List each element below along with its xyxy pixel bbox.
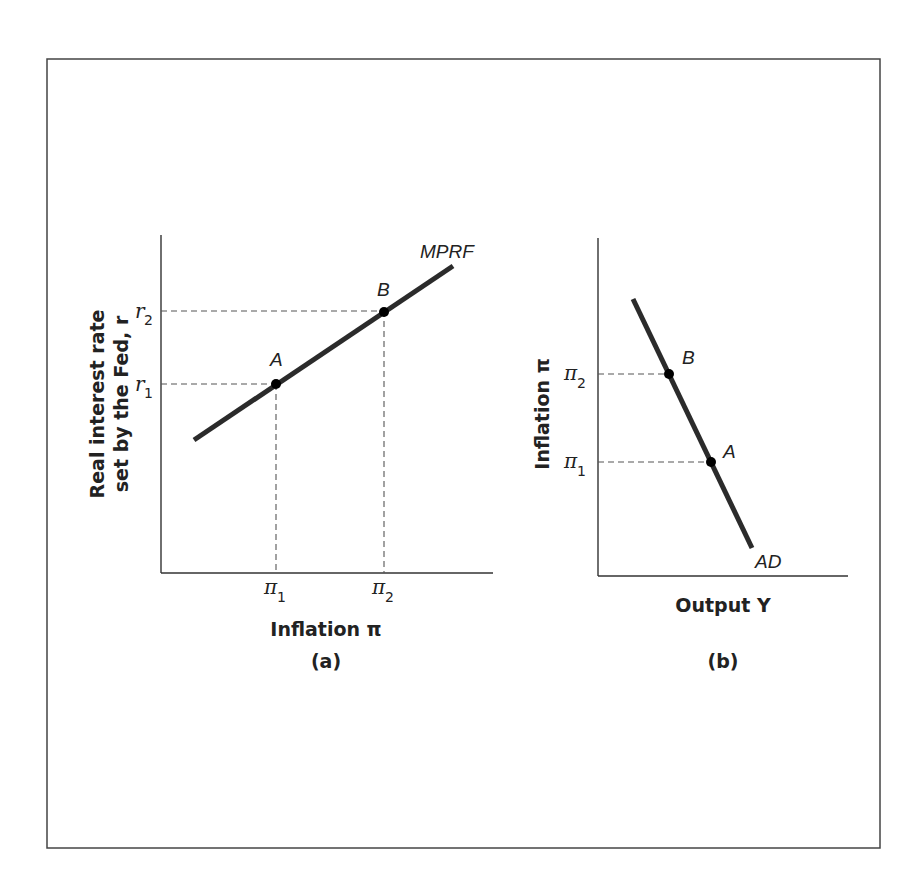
panel-a: A B MPRF r 2 r 1 π 1 π 2 Inflation π (a)… xyxy=(86,235,493,672)
tick-pi2-base: π xyxy=(371,575,386,599)
tick-b-pi2-base: π xyxy=(563,361,578,385)
tick-pi2-sub: 2 xyxy=(385,589,394,605)
panel-a-point-b xyxy=(379,307,389,317)
panel-b-point-b-label: B xyxy=(682,347,695,368)
mprf-curve xyxy=(194,266,453,440)
panel-a-point-a xyxy=(271,379,281,389)
panel-a-x-axis-title: Inflation π xyxy=(270,618,381,640)
panel-b-point-a-label: A xyxy=(722,441,736,462)
ad-label: AD xyxy=(754,551,782,572)
tick-pi1-sub: 1 xyxy=(277,589,286,605)
ad-curve xyxy=(633,299,752,548)
panel-b-point-b xyxy=(664,369,674,379)
panel-a-y-axis-title-line1: Real interest rate xyxy=(86,310,108,499)
tick-b-pi2-sub: 2 xyxy=(577,375,586,391)
figure-frame xyxy=(47,59,880,848)
panel-a-point-a-label: A xyxy=(269,349,283,370)
panel-a-caption: (a) xyxy=(311,650,341,672)
panel-a-y-axis-title-line2: set by the Fed, r xyxy=(110,315,132,492)
panel-b-y-axis-title: Inflation π xyxy=(531,358,553,469)
mprf-label: MPRF xyxy=(420,241,475,262)
tick-b-pi1-base: π xyxy=(563,449,578,473)
panel-b-point-a xyxy=(706,457,716,467)
tick-r1-sub: 1 xyxy=(144,385,153,401)
panel-b-caption: (b) xyxy=(708,650,739,672)
panel-b-x-axis-title: Output Y xyxy=(675,594,771,616)
figure-canvas: A B MPRF r 2 r 1 π 1 π 2 Inflation π (a)… xyxy=(0,0,914,893)
tick-b-pi1-sub: 1 xyxy=(577,463,586,479)
panel-b: B A AD π 2 π 1 Output Y (b) Inflation π xyxy=(531,238,848,672)
tick-r2-sub: 2 xyxy=(144,312,153,328)
panel-a-point-b-label: B xyxy=(377,279,390,300)
tick-pi1-base: π xyxy=(263,575,278,599)
